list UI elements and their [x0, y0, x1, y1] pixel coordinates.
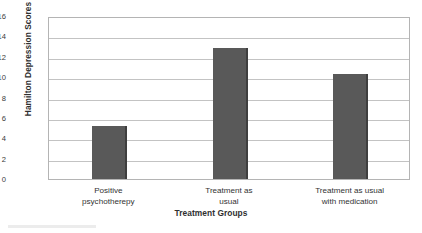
bar [333, 74, 368, 179]
y-axis-title: Hamilton Depression Scores [23, 0, 33, 139]
y-axis-tick-label: 12 [0, 54, 6, 62]
y-axis-tick-label: 8 [0, 95, 6, 103]
x-axis-tick-label: Positive psychotherepy [48, 186, 169, 207]
bar-chart-figure: Hamilton Depression Scores 1614121086420… [0, 0, 422, 233]
x-axis-title: Treatment Groups [0, 208, 422, 218]
y-axis-tick-label: 10 [0, 74, 6, 82]
y-axis-tick-label: 0 [0, 176, 6, 184]
gridline [49, 38, 409, 39]
scan-artifact [8, 225, 96, 228]
y-axis-tick-label: 2 [0, 156, 6, 164]
y-axis-tick-label: 6 [0, 115, 6, 123]
y-axis-tick-label: 14 [0, 33, 6, 41]
plot-area [48, 17, 410, 180]
y-axis-tick-label: 16 [0, 13, 6, 21]
x-axis-tick-label: Treatment as usual [169, 186, 290, 207]
bar [92, 126, 127, 179]
bar [213, 48, 248, 179]
x-axis-tick-label: Treatment as usual with medication [289, 186, 410, 207]
y-axis-tick-label: 4 [0, 135, 6, 143]
